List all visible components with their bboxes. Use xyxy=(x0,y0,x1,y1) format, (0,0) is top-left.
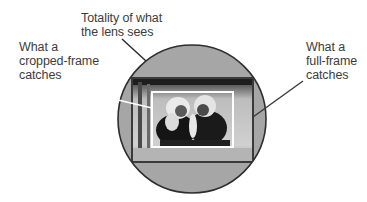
totality-label: Totality of what the lens sees xyxy=(81,11,162,39)
totality-leader-line xyxy=(122,39,146,61)
totality-label-line2: the lens sees xyxy=(81,25,153,39)
full-label-line1: What a xyxy=(306,40,345,54)
totality-label-line1: Totality of what xyxy=(81,11,162,25)
full-label-line2: full-frame xyxy=(306,54,357,68)
cropped-label-line3: catches xyxy=(19,68,61,82)
cropped-frame-label: What a cropped-frame catches xyxy=(19,40,99,82)
full-frame-label: What a full-frame catches xyxy=(306,40,357,82)
full-label-line3: catches xyxy=(306,68,348,82)
lens-diagram xyxy=(0,0,367,202)
cropped-label-line2: cropped-frame xyxy=(19,54,99,68)
photo xyxy=(132,78,253,162)
cropped-label-line1: What a xyxy=(19,40,58,54)
